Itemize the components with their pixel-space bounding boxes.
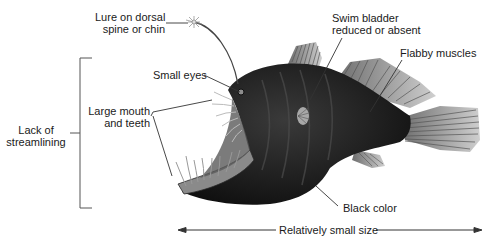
label-streamlining-line1: Lack of [4,124,68,136]
label-swim-bladder-line2: reduced or absent [332,24,421,36]
label-muscles: Flabby muscles [400,47,476,59]
label-lure-line2: spine or chin [95,23,165,35]
anglerfish-illustration [0,0,494,244]
label-lure-line1: Lure on dorsal [95,11,165,23]
tail-fin [400,106,480,152]
label-mouth-line2: and teeth [84,117,150,129]
eye-icon [238,89,244,95]
label-streamlining-line2: streamlining [4,136,68,148]
pectoral-fin [297,107,309,125]
label-mouth-line1: Large mouth [84,105,150,117]
anglerfish-diagram: Lure on dorsal spine or chin Small eyes … [0,0,494,244]
label-eyes: Small eyes [153,69,207,81]
label-lure: Lure on dorsal spine or chin [95,11,165,35]
label-color: Black color [343,202,397,214]
label-size: Relatively small size [279,224,378,236]
label-swim-bladder-line1: Swim bladder [332,12,421,24]
lure-icon [186,16,202,28]
label-swim-bladder: Swim bladder reduced or absent [332,12,421,36]
label-mouth: Large mouth and teeth [84,105,150,129]
label-streamlining: Lack of streamlining [4,124,68,148]
streamlining-bracket [70,58,92,208]
